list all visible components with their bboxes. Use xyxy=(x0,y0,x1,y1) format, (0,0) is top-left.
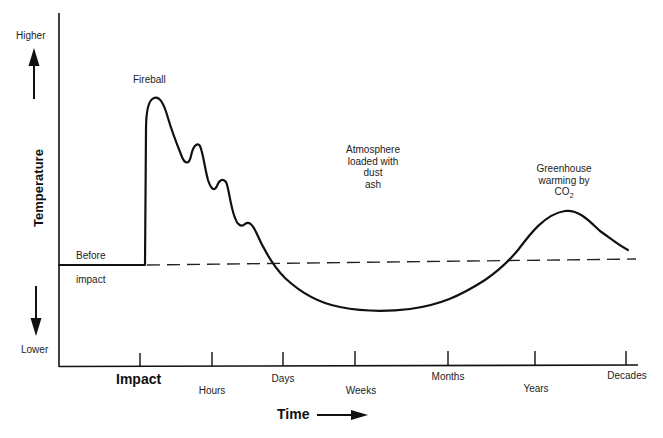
co-text: CO xyxy=(554,186,569,197)
atmosphere-annotation: Atmosphere loaded with dust ash xyxy=(346,144,400,190)
y-axis-lower-label: Lower xyxy=(21,344,48,356)
greenhouse-annotation: Greenhouse warming by CO2 xyxy=(536,163,591,198)
co2-subscript: 2 xyxy=(569,191,573,200)
atmosphere-line-1: Atmosphere xyxy=(346,144,400,156)
x-tick-label-days: Days xyxy=(272,373,295,385)
x-tick-label-weeks: Weeks xyxy=(346,385,376,397)
lower-arrow-icon xyxy=(31,286,42,336)
atmosphere-line-2: loaded with xyxy=(346,156,400,168)
x-tick-label-years: Years xyxy=(523,383,548,395)
time-arrow-icon xyxy=(317,410,368,420)
x-tick-label-impact: Impact xyxy=(116,371,161,387)
greenhouse-line-2: warming by xyxy=(536,175,591,187)
x-axis-line xyxy=(59,365,638,367)
impact-temperature-diagram: Higher Lower Temperature Fireball Before… xyxy=(0,0,663,438)
x-axis-title: Time xyxy=(277,406,309,422)
atmosphere-line-3: dust xyxy=(346,167,400,179)
greenhouse-line-3: CO2 xyxy=(536,186,591,198)
x-tick-label-hours: Hours xyxy=(199,385,226,397)
diagram-canvas xyxy=(0,0,663,438)
y-axis-title: Temperature xyxy=(31,149,46,227)
x-tick-label-decades: Decades xyxy=(607,370,646,382)
impact-annotation-label: impact xyxy=(76,274,105,286)
higher-arrow-icon xyxy=(29,48,40,99)
x-axis-ticks xyxy=(140,351,626,366)
greenhouse-line-1: Greenhouse xyxy=(536,163,591,175)
x-tick-label-months: Months xyxy=(432,371,465,383)
atmosphere-line-4: ash xyxy=(346,179,400,191)
temperature-curve xyxy=(59,98,628,311)
fireball-label: Fireball xyxy=(133,74,166,86)
before-label: Before xyxy=(76,250,105,262)
y-axis-higher-label: Higher xyxy=(16,30,45,42)
baseline-dashed-line xyxy=(147,259,636,265)
